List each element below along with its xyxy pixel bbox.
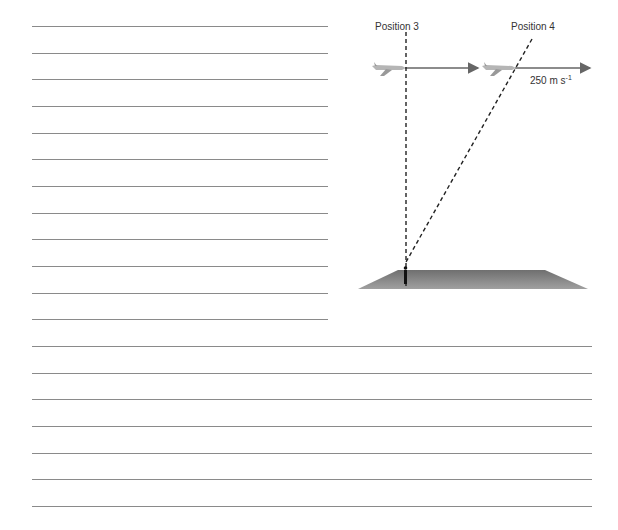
position-3-label: Position 3 bbox=[375, 21, 419, 32]
observer-icon bbox=[404, 266, 408, 284]
plane-observer-diagram: Position 3 Position 4 250 m s-1 bbox=[0, 0, 618, 530]
speed-exponent: -1 bbox=[566, 74, 572, 81]
airplane-icon bbox=[372, 62, 406, 76]
position-4-label: Position 4 bbox=[511, 21, 555, 32]
speed-value: 250 m s bbox=[530, 75, 566, 86]
speed-label: 250 m s-1 bbox=[530, 74, 572, 86]
sight-line-diagonal bbox=[406, 39, 532, 262]
ground-plane bbox=[358, 270, 588, 289]
airplane-icon bbox=[482, 62, 516, 76]
